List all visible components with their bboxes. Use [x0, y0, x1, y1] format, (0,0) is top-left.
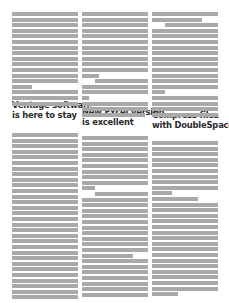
text-line — [152, 191, 172, 195]
text-line — [12, 217, 78, 221]
text-line — [152, 219, 218, 223]
text-line — [82, 220, 148, 224]
text-line — [82, 231, 148, 235]
text-line — [82, 153, 148, 157]
text-line — [152, 259, 218, 263]
text-line — [12, 133, 78, 137]
text-line — [152, 85, 218, 89]
text-line — [82, 214, 148, 218]
text-line — [152, 90, 165, 94]
text-line — [12, 251, 78, 255]
text-line — [82, 107, 148, 111]
text-line — [152, 68, 218, 72]
text-line — [82, 181, 148, 185]
column-1: Ventage software is here to stay — [12, 0, 78, 303]
text-line — [82, 85, 148, 89]
text-line — [152, 158, 218, 162]
text-line — [152, 247, 218, 251]
text-line — [12, 34, 78, 38]
text-line — [12, 223, 78, 227]
text-line — [12, 90, 78, 94]
text-line — [12, 139, 78, 143]
text-line — [82, 242, 148, 246]
text-line — [152, 141, 218, 145]
text-line — [12, 74, 78, 78]
text-line — [12, 211, 78, 215]
text-line — [82, 198, 148, 202]
text-line — [82, 102, 148, 106]
headline-line-2: with DoubleSpace — [152, 120, 224, 130]
text-line — [152, 270, 218, 274]
text-line — [12, 273, 78, 277]
text-line — [82, 203, 148, 207]
text-line — [152, 175, 218, 179]
text-line — [152, 180, 218, 184]
text-line — [82, 270, 148, 274]
text-line — [152, 281, 218, 285]
headline-line-2: is excellent — [82, 117, 154, 127]
text-line — [152, 208, 218, 212]
text-line — [152, 264, 218, 268]
text-line — [12, 155, 78, 159]
text-line — [152, 236, 218, 240]
text-line — [152, 57, 218, 61]
text-line — [152, 231, 218, 235]
text-line — [82, 74, 99, 78]
text-line — [12, 183, 78, 187]
text-line — [12, 245, 78, 249]
text-line — [152, 253, 218, 257]
text-line — [82, 34, 148, 38]
text-line — [12, 18, 78, 22]
text-line — [152, 169, 218, 173]
text-line — [152, 287, 218, 291]
text-line — [12, 79, 78, 83]
text-line — [82, 12, 148, 16]
text-line — [12, 239, 78, 243]
text-line — [12, 167, 78, 171]
text-line — [82, 40, 148, 44]
text-line — [152, 79, 218, 83]
text-line — [12, 144, 78, 148]
text-line — [82, 136, 148, 140]
text-line — [12, 40, 78, 44]
text-line — [82, 237, 148, 241]
text-line — [12, 68, 78, 72]
newsletter-page: Ventage software is here to stay New Exc… — [0, 0, 229, 303]
text-line — [152, 102, 218, 106]
text-line — [12, 161, 78, 165]
text-line — [152, 34, 218, 38]
text-line — [12, 23, 78, 27]
text-line — [165, 23, 218, 27]
text-line — [152, 214, 218, 218]
text-line — [82, 209, 148, 213]
text-line — [12, 279, 78, 283]
text-line — [152, 96, 218, 100]
text-line — [82, 57, 148, 61]
text-line — [12, 189, 78, 193]
text-line — [152, 40, 218, 44]
column-3: Compress files with DoubleSpace — [152, 0, 218, 303]
text-line — [82, 29, 148, 33]
text-line — [82, 68, 148, 72]
text-line — [12, 150, 78, 154]
headline-line-2: is here to stay — [12, 110, 84, 120]
text-line — [95, 79, 148, 83]
text-line — [82, 46, 148, 50]
text-line — [82, 282, 148, 286]
text-line — [152, 12, 218, 16]
text-line — [12, 29, 78, 33]
text-line — [12, 46, 78, 50]
text-line — [82, 259, 148, 263]
text-line — [152, 292, 178, 296]
text-line — [82, 164, 148, 168]
text-line — [152, 107, 218, 111]
text-line — [12, 172, 78, 176]
text-line — [82, 186, 95, 190]
text-line — [12, 295, 78, 299]
text-line — [12, 200, 78, 204]
text-line — [152, 62, 218, 66]
text-line — [12, 290, 78, 294]
text-line — [12, 102, 78, 106]
text-line — [82, 51, 148, 55]
text-line — [152, 242, 218, 246]
